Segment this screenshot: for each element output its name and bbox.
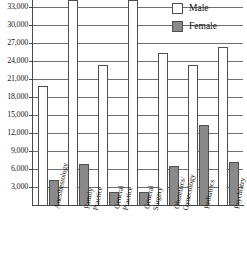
- x-axis-line: [33, 205, 244, 206]
- legend-label-female: Female: [189, 21, 217, 31]
- bar-male: [158, 53, 168, 205]
- legend-item-female: Female: [172, 19, 246, 33]
- y-axis-tick-label: 9,000: [0, 147, 28, 155]
- gridline: [33, 43, 243, 44]
- legend-label-male: Male: [189, 3, 209, 13]
- y-axis-tick-label: 27,000: [0, 39, 28, 47]
- y-axis-tick-label: 30,000: [0, 21, 28, 29]
- legend-swatch-female-icon: [172, 21, 183, 32]
- y-axis-tick-label: 3,000: [0, 183, 28, 191]
- y-axis-tick-label: 33,000: [0, 3, 28, 11]
- bar-male: [98, 65, 108, 205]
- legend: Male Female: [172, 1, 246, 37]
- y-axis-tick-label: 21,000: [0, 75, 28, 83]
- y-axis-line: [32, 0, 33, 206]
- bar-chart: 3,0006,0009,00012,00015,00018,00021,0002…: [0, 0, 247, 261]
- y-axis-tick-label: 12,000: [0, 129, 28, 137]
- y-axis-tick-label: 6,000: [0, 165, 28, 173]
- gridline: [33, 61, 243, 62]
- bar-male: [38, 86, 48, 205]
- y-axis-tick-label: 18,000: [0, 93, 28, 101]
- y-axis-tick-label: 24,000: [0, 57, 28, 65]
- bar-male: [218, 47, 228, 205]
- bar-male: [68, 0, 78, 205]
- gridline: [33, 97, 243, 98]
- gridline: [33, 79, 243, 80]
- y-axis-tick-label: 15,000: [0, 111, 28, 119]
- legend-item-male: Male: [172, 1, 246, 15]
- gridline: [33, 133, 243, 134]
- bar-male: [128, 0, 138, 205]
- gridline: [33, 151, 243, 152]
- legend-swatch-male-icon: [172, 3, 183, 14]
- gridline: [33, 115, 243, 116]
